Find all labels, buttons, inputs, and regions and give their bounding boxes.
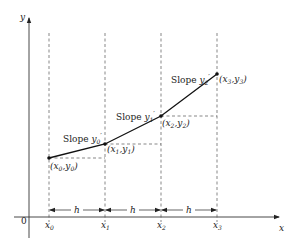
x-tick-1: x1	[101, 220, 110, 231]
slope-diagram: y x 0 (x0,y0) (x1,y1) (x2,y2) (x3,y3) Sl…	[0, 0, 291, 244]
vertical-guides	[49, 33, 217, 222]
y-axis-label: y	[19, 12, 26, 22]
x-tick-labels: x0 x1 x2 x3	[45, 220, 222, 231]
axes: y x 0	[14, 12, 284, 238]
slope-label-1: Slope y1′	[116, 110, 155, 123]
origin-label: 0	[21, 216, 27, 226]
point-label-3: (x3,y3)	[219, 74, 247, 85]
step-label-0: h	[74, 205, 80, 215]
point-labels: (x0,y0) (x1,y1) (x2,y2) (x3,y3)	[50, 74, 247, 172]
x-tick-3: x3	[213, 220, 222, 231]
slope-label-2: Slope y2′	[171, 73, 210, 86]
x-tick-2: x2	[157, 220, 166, 231]
x-tick-0: x0	[45, 220, 54, 231]
point-label-2: (x2,y2)	[162, 118, 190, 129]
slope-labels: Slope y0′ Slope y1′ Slope y2′	[63, 73, 210, 145]
x-axis-label: x	[279, 223, 284, 233]
point-label-0: (x0,y0)	[50, 161, 78, 172]
point-0	[47, 156, 51, 160]
slope-label-0: Slope y0′	[63, 132, 102, 145]
point-label-1: (x1,y1)	[107, 144, 135, 155]
step-label-1: h	[130, 205, 136, 215]
step-label-2: h	[186, 205, 192, 215]
